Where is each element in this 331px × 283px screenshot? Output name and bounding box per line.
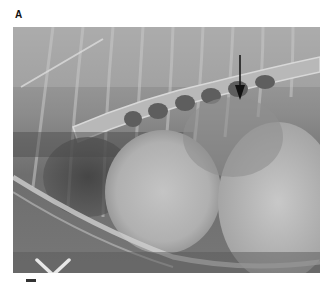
- radiograph-render: [13, 27, 320, 273]
- radiograph-image: [13, 27, 320, 273]
- bottom-fragment: [26, 279, 36, 282]
- panel-label: A: [15, 9, 22, 20]
